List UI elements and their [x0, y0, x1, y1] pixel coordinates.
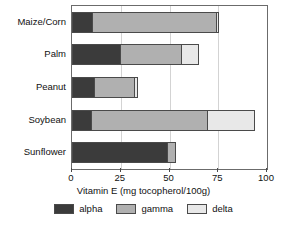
x-tick-label: 75: [197, 172, 237, 183]
bar-row: [72, 77, 137, 98]
legend: alphagammadelta: [0, 203, 287, 214]
legend-swatch-gamma: [116, 204, 136, 214]
x-tick-label: 25: [100, 172, 140, 183]
bar-segment-gamma: [167, 142, 177, 163]
bar-segment-delta: [181, 44, 199, 65]
bar-segment-delta: [207, 110, 256, 131]
legend-label-delta: delta: [212, 203, 233, 214]
x-axis-title: Vitamin E (mg tocopherol/100g): [0, 185, 287, 196]
category-label-maize-corn: Maize/Corn: [0, 16, 66, 27]
plot-area: [71, 5, 268, 170]
bar-segment-alpha: [72, 77, 95, 98]
bar-row: [72, 44, 198, 65]
bar-segment-alpha: [72, 110, 92, 131]
bar-segment-delta: [134, 77, 138, 98]
legend-label-alpha: alpha: [79, 203, 102, 214]
bar-segment-alpha: [72, 12, 93, 33]
bar-segment-gamma: [94, 77, 135, 98]
x-tick-label: 0: [51, 172, 91, 183]
legend-swatch-alpha: [54, 204, 74, 214]
vitamin-e-stacked-bar-chart: Maize/CornPalmPeanutSoybeanSunflower 025…: [0, 0, 287, 232]
bar-row: [72, 12, 218, 33]
bar-segment-delta: [216, 12, 219, 33]
category-label-sunflower: Sunflower: [0, 146, 66, 157]
legend-entry-delta: delta: [187, 203, 233, 214]
legend-label-gamma: gamma: [141, 203, 173, 214]
bar-segment-gamma: [92, 12, 217, 33]
bar-row: [72, 142, 175, 163]
bar-segment-gamma: [120, 44, 182, 65]
category-label-peanut: Peanut: [0, 81, 66, 92]
legend-swatch-delta: [187, 204, 207, 214]
x-tick-label: 50: [149, 172, 189, 183]
category-label-soybean: Soybean: [0, 114, 66, 125]
x-tick-label: 100: [246, 172, 286, 183]
bar-row: [72, 110, 254, 131]
legend-entry-gamma: gamma: [116, 203, 173, 214]
category-label-palm: Palm: [0, 48, 66, 59]
legend-entry-alpha: alpha: [54, 203, 102, 214]
bar-segment-gamma: [91, 110, 208, 131]
bar-segment-alpha: [72, 142, 168, 163]
bar-segment-alpha: [72, 44, 121, 65]
